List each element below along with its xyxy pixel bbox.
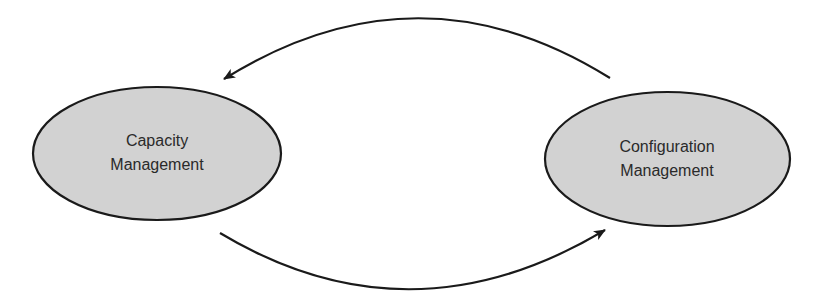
capacity-configuration-cycle-diagram bbox=[0, 0, 821, 307]
arrow-configuration-to-capacity bbox=[224, 18, 610, 79]
node-capacity-management bbox=[33, 87, 281, 220]
node-configuration-management bbox=[545, 92, 790, 226]
arrow-capacity-to-configuration bbox=[220, 230, 605, 289]
